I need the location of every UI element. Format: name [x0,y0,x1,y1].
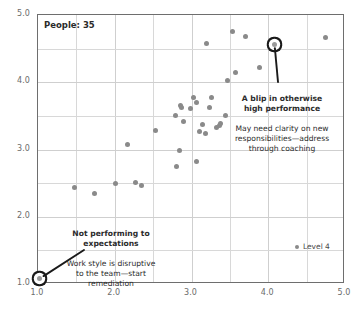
x-axis-tick-label: 5.0 [329,288,354,297]
y-axis-tick-label: 5.0 [0,9,30,18]
data-point [179,105,184,110]
gridline-vertical [192,15,193,282]
x-axis-tick-label: 3.0 [176,288,206,297]
data-point [233,70,238,75]
y-axis-tick-label: 2.0 [0,211,30,220]
data-point [197,129,202,134]
people-count-label: People: 35 [44,20,95,30]
x-axis-tick-label: 1.0 [22,288,52,297]
data-point [203,131,208,136]
data-point [207,105,212,110]
data-point [194,100,199,105]
gridline-horizontal [38,183,343,184]
data-point [191,95,196,100]
data-point-highlighted [272,42,277,47]
data-point [139,183,144,188]
annotation-headline: A blip in otherwise high performance [218,94,346,114]
data-point [133,180,138,185]
data-point [181,119,186,124]
chart-legend: Level 4 [295,242,330,251]
x-axis-tick-label: 4.0 [252,288,282,297]
data-point [257,65,262,70]
data-point [209,95,214,100]
data-point [153,128,158,133]
data-point [113,181,118,186]
data-point [194,159,199,164]
annotation-headline: Not performing to expectations [45,229,177,249]
data-point [225,78,230,83]
annotation-high-performer-blip: A blip in otherwise high performance May… [218,84,346,164]
data-point [92,191,97,196]
y-axis-tick-label: 3.0 [0,144,30,153]
annotation-body: May need clarity on new responsibilities… [218,124,346,154]
data-point [177,148,182,153]
gridline-horizontal [38,49,343,50]
scatter-chart: People: 35 Level 4 A blip in otherwise h… [0,0,354,320]
annotation-body: Work style is disruptive to the team—sta… [45,259,177,289]
x-axis-tick-label: 2.0 [99,288,129,297]
data-point [230,29,235,34]
data-point [243,34,248,39]
data-point [204,41,209,46]
legend-label: Level 4 [303,242,330,251]
data-point [72,185,77,190]
legend-swatch-icon [295,245,299,249]
y-axis-tick-label: 1.0 [0,278,30,287]
data-point [173,113,178,118]
data-point [323,35,328,40]
data-point [174,164,179,169]
gridline-horizontal [38,217,343,218]
y-axis-tick-label: 4.0 [0,76,30,85]
data-point-highlighted [37,276,42,281]
data-point [125,142,130,147]
data-point [200,122,205,127]
